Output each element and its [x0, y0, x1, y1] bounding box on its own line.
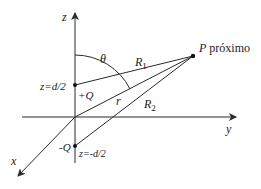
negative-charge-label: -Q — [59, 141, 71, 153]
r2-label: R2 — [143, 97, 156, 113]
negative-charge-dot — [73, 144, 77, 148]
dipole-diagram: z y x z=d/2 +Q -Q z=-d/2 θ R1 r R2 Ppróx… — [0, 0, 261, 189]
y-axis-label: y — [225, 122, 232, 136]
positive-charge-label: +Q — [78, 89, 93, 101]
negative-position-label: z=-d/2 — [78, 148, 106, 159]
x-axis-label: x — [10, 154, 17, 168]
positive-position-label: z=d/2 — [39, 80, 66, 92]
point-p-dot — [191, 54, 195, 58]
r2-line — [75, 56, 193, 146]
r1-line — [75, 56, 193, 85]
r-line — [75, 56, 193, 117]
point-p-label: Ppróximo — [198, 41, 250, 55]
r1-label: R1 — [134, 55, 147, 71]
z-axis-label: z — [61, 10, 67, 24]
theta-label: θ — [100, 52, 106, 66]
positive-charge-dot — [73, 83, 77, 87]
r-label: r — [116, 94, 121, 108]
